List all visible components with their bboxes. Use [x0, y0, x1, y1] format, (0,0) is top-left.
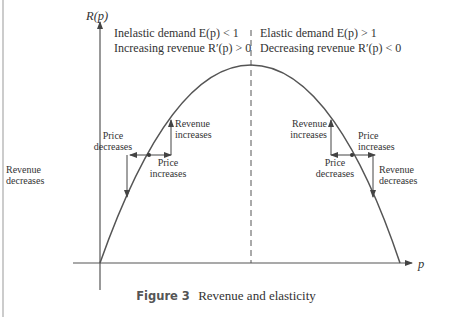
right-price-decreases-1: Price [325, 157, 346, 168]
elastic-heading: Elastic demand E(p) > 1 [260, 26, 377, 40]
figure-canvas: R(p) p Inelastic demand E(p) < 1 Increas… [0, 0, 452, 317]
figure-caption: Figure 3 Revenue and elasticity [0, 288, 452, 304]
y-axis-label: R(p) [85, 9, 108, 23]
right-revenue-increases-2: increases [290, 129, 327, 140]
left-revenue-increases-1: Revenue [175, 118, 211, 129]
right-revenue-decreases-2: decreases [379, 175, 417, 186]
figure-number: Figure 3 [136, 289, 190, 303]
right-revenue-increases-1: Revenue [292, 118, 328, 129]
left-price-increases-2: increases [150, 168, 187, 179]
left-price-increases-1: Price [158, 157, 179, 168]
left-price-decreases-2: decreases [94, 141, 132, 152]
left-revenue-increases-2: increases [175, 129, 212, 140]
increasing-revenue-heading: Increasing revenue R′(p) > 0 [114, 41, 251, 55]
revenue-elasticity-figure: R(p) p Inelastic demand E(p) < 1 Increas… [0, 0, 452, 317]
x-axis-label: p [417, 257, 424, 271]
revenue-curve-visible [100, 65, 400, 263]
right-revenue-decreases-1: Revenue [379, 164, 415, 175]
left-price-decreases-1: Price [103, 130, 124, 141]
inelastic-heading: Inelastic demand E(p) < 1 [114, 26, 239, 40]
right-price-increases-2: increases [358, 141, 395, 152]
left-revenue-decreases-1: Revenue [6, 164, 42, 175]
figure-title: Revenue and elasticity [198, 288, 316, 303]
left-revenue-decreases-2: decreases [6, 175, 44, 186]
right-price-decreases-2: decreases [316, 168, 354, 179]
right-price-increases-1: Price [358, 130, 379, 141]
decreasing-revenue-heading: Decreasing revenue R′(p) < 0 [260, 41, 401, 55]
